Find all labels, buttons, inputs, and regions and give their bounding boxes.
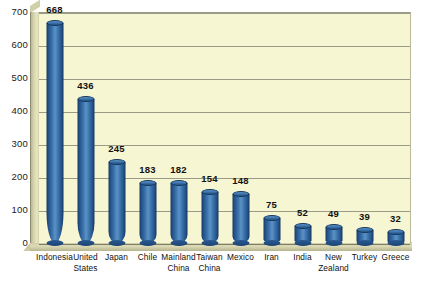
bar-value-label: 39 — [359, 211, 370, 222]
bar-cap-icon — [263, 215, 280, 221]
bar-value-label: 668 — [46, 4, 62, 15]
bar-base-icon — [170, 240, 187, 246]
bar-cap-icon — [294, 223, 311, 229]
gridline-0 — [39, 244, 410, 245]
bar-group: 154 — [194, 12, 225, 243]
bar-group: 668 — [39, 12, 70, 243]
bar-base-icon — [201, 240, 218, 246]
bar-cap-icon — [170, 180, 187, 186]
axis-wall-3d — [30, 12, 39, 243]
bar-chart: 0100200300400500600700 66843624518318215… — [0, 0, 425, 284]
bar-taiwan-china[interactable] — [201, 192, 218, 243]
x-axis-tick-label: Greece — [374, 252, 417, 263]
bar-cap-icon — [356, 227, 373, 233]
bar-value-label: 148 — [232, 175, 248, 186]
x-axis-tick-line: States — [64, 263, 107, 274]
bar-group: 245 — [101, 12, 132, 243]
bar-base-icon — [232, 240, 249, 246]
y-axis-tick-label: 100 — [2, 204, 28, 215]
bar-cap-icon — [77, 96, 94, 102]
bar-turkey[interactable] — [356, 230, 373, 243]
bar-value-label: 154 — [201, 173, 217, 184]
bars-layer: 6684362451831821541487552493932 — [39, 12, 411, 243]
bar-base-icon — [263, 240, 280, 246]
x-axis-tick-line: Zealand — [312, 263, 355, 274]
bar-new-zealand[interactable] — [325, 227, 342, 243]
bar-value-label: 49 — [328, 208, 339, 219]
bar-group: 183 — [132, 12, 163, 243]
bar-cap-icon — [46, 20, 63, 26]
bar-cap-icon — [201, 189, 218, 195]
x-axis-tick-line: China — [188, 263, 231, 274]
bar-value-label: 436 — [77, 80, 93, 91]
y-axis: 0100200300400500600700 — [0, 0, 28, 284]
bar-cap-icon — [232, 191, 249, 197]
bar-greece[interactable] — [387, 232, 404, 243]
bar-group: 182 — [163, 12, 194, 243]
bar-iran[interactable] — [263, 218, 280, 243]
bar-group: 436 — [70, 12, 101, 243]
bar-base-icon — [108, 240, 125, 246]
bar-cap-icon — [387, 229, 404, 235]
bar-base-icon — [356, 240, 373, 246]
bar-india[interactable] — [294, 226, 311, 243]
bar-cap-icon — [139, 180, 156, 186]
y-axis-tick-label: 600 — [2, 39, 28, 50]
bar-base-icon — [387, 240, 404, 246]
bar-mexico[interactable] — [232, 194, 249, 243]
bar-value-label: 32 — [390, 213, 401, 224]
bar-cap-icon — [325, 224, 342, 230]
bar-value-label: 75 — [266, 199, 277, 210]
bar-group: 49 — [318, 12, 349, 243]
bar-group: 32 — [380, 12, 411, 243]
y-axis-tick-label: 400 — [2, 105, 28, 116]
bar-group: 75 — [256, 12, 287, 243]
bar-chile[interactable] — [139, 183, 156, 243]
y-axis-tick-label: 200 — [2, 171, 28, 182]
bar-group: 52 — [287, 12, 318, 243]
bar-value-label: 183 — [139, 164, 155, 175]
y-axis-tick-label: 700 — [2, 6, 28, 17]
bar-united-states[interactable] — [77, 99, 94, 243]
y-axis-tick-label: 500 — [2, 72, 28, 83]
bar-cap-icon — [108, 159, 125, 165]
bar-indonesia[interactable] — [46, 23, 63, 243]
bar-japan[interactable] — [108, 162, 125, 243]
bar-value-label: 182 — [170, 164, 186, 175]
y-axis-tick-label: 0 — [2, 237, 28, 248]
bar-group: 39 — [349, 12, 380, 243]
bar-value-label: 245 — [108, 143, 124, 154]
x-axis-tick-line: Greece — [374, 252, 417, 263]
bar-mainland-china[interactable] — [170, 183, 187, 243]
x-axis: IndonesiaUnitedStatesJapanChileMainlandC… — [39, 252, 411, 284]
bar-group: 148 — [225, 12, 256, 243]
bar-base-icon — [77, 240, 94, 246]
y-axis-tick-label: 300 — [2, 138, 28, 149]
bar-value-label: 52 — [297, 207, 308, 218]
